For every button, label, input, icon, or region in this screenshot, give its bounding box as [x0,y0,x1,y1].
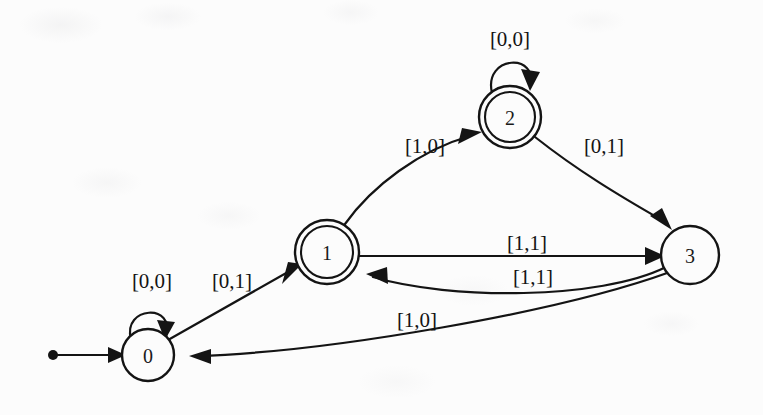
state-2-label: 2 [505,107,515,129]
edge-3-1-arrow-head [366,267,388,284]
edge-3-0-arrow-head [189,349,211,364]
edge-label-2-to-2: [0,0] [490,27,530,51]
edge-label-2-to-3: [0,1] [584,134,624,158]
state-3-label: 3 [685,245,695,267]
state-0-label: 0 [143,345,153,367]
edge-label-0-to-0: [0,0] [132,269,172,293]
edge-label-0-to-1: [0,1] [212,269,252,293]
edge-label-1-to-2: [1,0] [405,134,445,158]
edge-start-to-0 [48,347,126,363]
state-machine-graph: 0 1 2 3 [0,0] [0,1] [1,0] [0,0] [0,1] [1… [0,0,763,415]
state-1-label: 1 [322,242,332,264]
edge-1-2-arrow-head [458,128,482,144]
edge-label-3-to-1: [1,1] [513,265,553,289]
edge-2-3-arrow-head [650,208,672,230]
state-node-3[interactable]: 3 [661,226,719,284]
edge-label-1-to-3: [1,1] [507,231,547,255]
self-loop-2-arrow-head [521,69,540,91]
state-node-1[interactable]: 1 [295,220,359,284]
diagram-canvas: 0 1 2 3 [0,0] [0,1] [1,0] [0,0] [0,1] [1… [0,0,763,415]
state-node-2[interactable]: 2 [479,86,541,148]
state-node-0[interactable]: 0 [122,329,174,381]
edge-label-3-to-0: [1,0] [397,308,437,332]
